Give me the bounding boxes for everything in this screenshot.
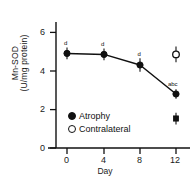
legend-item-atrophy: Atrophy [68,111,110,121]
series-points-atrophy [64,48,179,99]
series-points-low [173,113,178,125]
x-axis-ticks [67,148,176,154]
y-tick-label-4: 4 [40,67,45,76]
y-tick-label-0: 0 [40,144,45,153]
y-tick-label-2: 2 [40,105,45,114]
legend-item-contralateral: Contralateral [68,124,131,134]
legend-label-atrophy: Atrophy [79,111,110,121]
annotation-day12: abc [168,81,177,87]
open-circle-icon [68,125,76,133]
y-tick-label-6: 6 [40,28,45,37]
annotation-day4: d [101,41,104,47]
chart-figure: 6 4 2 0 0 4 8 12 Mn-SOD (U/mg protein) D… [0,0,196,181]
x-tick-label-8: 8 [137,156,142,165]
y-axis-title: Mn-SOD (U/mg protein) [11,15,33,111]
series-points-contralateral [173,47,180,63]
x-tick-label-0: 0 [64,156,69,165]
series-line-atrophy [67,53,176,94]
filled-circle-icon [68,112,76,120]
y-axis-title-line2: (U/mg protein) [20,15,29,111]
y-axis-ticks [50,32,56,148]
annotation-day0: d [64,40,67,46]
x-tick-label-4: 4 [101,156,106,165]
annotation-day8: d [138,51,141,57]
x-tick-label-12: 12 [170,156,180,165]
legend-label-contralateral: Contralateral [79,124,131,134]
x-axis-title: Day [97,167,112,176]
